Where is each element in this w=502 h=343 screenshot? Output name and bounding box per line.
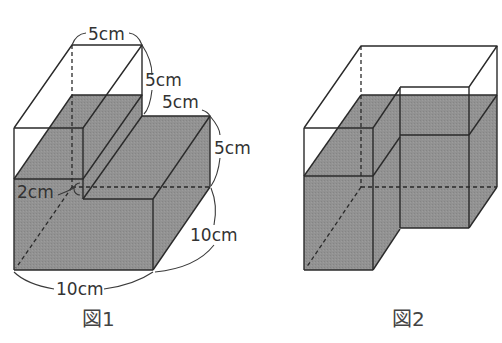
figure-2-caption: 図2 [392, 307, 425, 331]
figure-1: 5cm 5cm 5cm 5cm 2cm 10cm 10cm 図1 [14, 24, 251, 331]
label-step-width: 5cm [162, 92, 199, 112]
figure-2: 図2 [304, 46, 497, 331]
label-top-width: 5cm [88, 24, 125, 44]
label-step-height: 5cm [214, 138, 251, 158]
figure-1-caption: 図1 [82, 307, 115, 331]
diagram-canvas: 5cm 5cm 5cm 5cm 2cm 10cm 10cm 図1 [0, 0, 502, 343]
label-upper-height: 5cm [145, 70, 182, 90]
label-width: 10cm [56, 279, 104, 299]
label-depth: 10cm [190, 225, 238, 245]
label-hole-depth: 2cm [17, 182, 54, 202]
